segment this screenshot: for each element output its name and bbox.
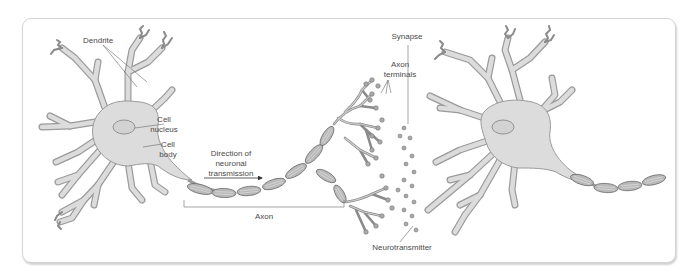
axon-terminals-leader-lines (381, 80, 391, 94)
neuron-diagram: Dendrite Cell nucleus Cell body Directio… (0, 0, 697, 276)
neurotransmitter-leader-line (400, 226, 413, 242)
presynaptic-neuron (42, 26, 394, 234)
label-axon-terminals-line2: terminals (384, 70, 416, 79)
axon-terminals (334, 78, 394, 235)
label-cell-nucleus-line1: Cell (157, 115, 171, 124)
cell-body-right (481, 100, 594, 184)
label-direction-line3: transmission (209, 169, 254, 178)
label-direction-line1: Direction of (211, 149, 252, 158)
label-cell-nucleus-line2: nucleus (150, 125, 178, 134)
label-synapse: Synapse (391, 32, 423, 41)
label-axon-terminals-line1: Axon (391, 60, 409, 69)
label-direction-line2: neuronal (215, 159, 246, 168)
label-neurotransmitter: Neurotransmitter (372, 243, 432, 252)
label-axon: Axon (255, 212, 273, 221)
label-dendrite: Dendrite (83, 36, 114, 45)
axon-bracket (184, 200, 344, 207)
axon-myelin-right (569, 172, 667, 194)
label-cell-body-line2: body (159, 150, 176, 159)
axon-myelin-left (186, 124, 348, 204)
postsynaptic-neuron (428, 26, 667, 232)
neurotransmitter-vesicles (396, 126, 418, 232)
cell-nucleus-left (113, 120, 135, 134)
label-cell-body-line1: Cell (161, 140, 175, 149)
cell-nucleus-right (492, 120, 514, 134)
